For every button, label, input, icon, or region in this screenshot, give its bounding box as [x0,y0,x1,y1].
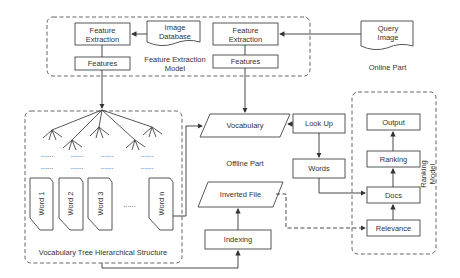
offline-part-label: Offline Part [215,159,275,168]
ellipsis: ...... [97,162,117,171]
relevance-node: Relevance [367,224,420,233]
word-card-n: Word n [157,184,166,224]
feature-extraction-right: Feature Extraction [218,26,273,44]
indexing-node: Indexing [205,235,271,244]
feature-extraction-model-label: Feature Extraction Model [137,55,213,73]
image-database: Image Database [155,23,195,41]
inverted-file-node: Inverted File [203,190,278,199]
ellipsis: ...... [37,162,57,171]
ellipsis: ...... [37,150,57,159]
features-left: Features [75,59,130,68]
ellipsis: ...... [67,162,87,171]
output-node: Output [367,118,420,127]
docs-node: Docs [367,191,420,200]
vocabulary-node: Vocabulary [205,121,285,130]
ellipsis: ...... [137,150,157,159]
online-part-label: Online Part [355,63,420,72]
word-card-2: Word 2 [66,184,75,224]
word-card-1: Word 1 [37,184,46,224]
vocab-tree-label: Vocabulary Tree Hierarchical Structure [28,248,178,257]
ranking-model-label: Ranking Model [419,149,437,199]
ellipsis: ...... [137,162,157,171]
ranking-node: Ranking [367,155,420,164]
query-image: Query Image [368,24,408,42]
ellipsis: ...... [67,150,87,159]
features-right: Features [213,57,278,66]
ellipsis: ...... [117,200,142,209]
word-card-3: Word 3 [96,184,105,224]
ellipsis: ...... [97,150,117,159]
feature-extraction-left: Feature Extraction [75,26,130,44]
words-node: Words [293,164,345,173]
lookup-node: Look Up [293,119,345,128]
